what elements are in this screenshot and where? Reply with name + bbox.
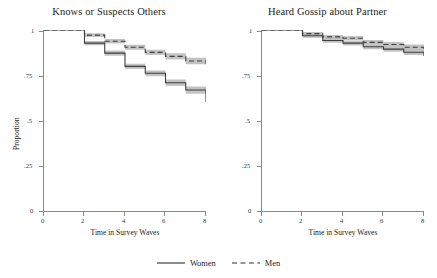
panel-heard-gossip-about-partner: Heard Gossip about Partner 0 .25 .5 .75 … bbox=[218, 0, 437, 250]
y-tick-left-1 bbox=[39, 166, 43, 167]
y-tick-label-right-1: .25 bbox=[242, 162, 250, 169]
x-tick-label-right-8: 8 bbox=[421, 217, 424, 224]
x-tick-label-right-0: 0 bbox=[259, 217, 262, 224]
x-tick-right-8 bbox=[423, 212, 424, 216]
y-tick-label-left-0: 0 bbox=[30, 207, 33, 214]
plot-area-right bbox=[262, 30, 424, 212]
legend-label-men: Men bbox=[265, 259, 280, 268]
x-tick-left-0 bbox=[43, 212, 44, 216]
x-axis-label-left: Time in Survey Waves bbox=[44, 228, 206, 237]
x-tick-right-4 bbox=[342, 212, 343, 216]
y-tick-left-3 bbox=[39, 76, 43, 77]
x-axis-label-right: Time in Survey Waves bbox=[262, 228, 424, 237]
y-tick-label-right-0: 0 bbox=[248, 207, 251, 214]
y-tick-right-1 bbox=[257, 166, 261, 167]
plot-area-left bbox=[44, 30, 206, 212]
x-tick-left-2 bbox=[83, 212, 84, 216]
y-tick-right-3 bbox=[257, 76, 261, 77]
series-canvas-right bbox=[262, 30, 424, 212]
legend-item-men: Men bbox=[232, 259, 280, 268]
panel-knows-or-suspects-others: Knows or Suspects Others Proportion 0 .2… bbox=[0, 0, 218, 250]
y-tick-label-left-3: .75 bbox=[24, 72, 32, 79]
y-tick-right-4 bbox=[257, 31, 261, 32]
y-tick-right-2 bbox=[257, 121, 261, 122]
x-tick-label-left-8: 8 bbox=[203, 217, 206, 224]
legend-label-women: Women bbox=[190, 259, 216, 268]
x-tick-left-6 bbox=[164, 212, 165, 216]
y-tick-label-right-2: .5 bbox=[245, 117, 250, 124]
x-tick-label-left-4: 4 bbox=[122, 217, 125, 224]
x-tick-right-2 bbox=[301, 212, 302, 216]
y-tick-label-right-4: 1 bbox=[249, 27, 252, 34]
x-tick-left-4 bbox=[124, 212, 125, 216]
x-tick-label-right-4: 4 bbox=[340, 217, 343, 224]
y-tick-label-left-2: .5 bbox=[27, 117, 32, 124]
legend: Women Men bbox=[0, 252, 437, 274]
y-tick-label-left-1: .25 bbox=[24, 162, 32, 169]
y-tick-left-2 bbox=[39, 121, 43, 122]
x-tick-label-left-2: 2 bbox=[81, 217, 84, 224]
x-tick-label-left-6: 6 bbox=[162, 217, 165, 224]
x-tick-right-6 bbox=[382, 212, 383, 216]
x-tick-label-right-2: 2 bbox=[299, 217, 302, 224]
y-tick-label-left-4: 1 bbox=[31, 27, 34, 34]
series-canvas-left bbox=[44, 30, 206, 212]
x-tick-right-0 bbox=[261, 212, 262, 216]
x-tick-label-left-0: 0 bbox=[41, 217, 44, 224]
legend-swatch-solid-icon bbox=[157, 259, 185, 267]
y-tick-label-right-3: .75 bbox=[242, 72, 250, 79]
x-tick-left-8 bbox=[205, 212, 206, 216]
figure-root: Knows or Suspects Others Proportion 0 .2… bbox=[0, 0, 437, 278]
legend-item-women: Women bbox=[157, 259, 216, 268]
plot-box-right: 0 .25 .5 .75 1 0 2 4 6 8 Time in Survey … bbox=[218, 0, 437, 250]
plot-box-left: 0 .25 .5 .75 1 0 2 4 6 8 Time in Survey … bbox=[0, 0, 218, 250]
x-tick-label-right-6: 6 bbox=[380, 217, 383, 224]
y-tick-left-4 bbox=[39, 31, 43, 32]
legend-swatch-dashed-icon bbox=[232, 259, 260, 267]
